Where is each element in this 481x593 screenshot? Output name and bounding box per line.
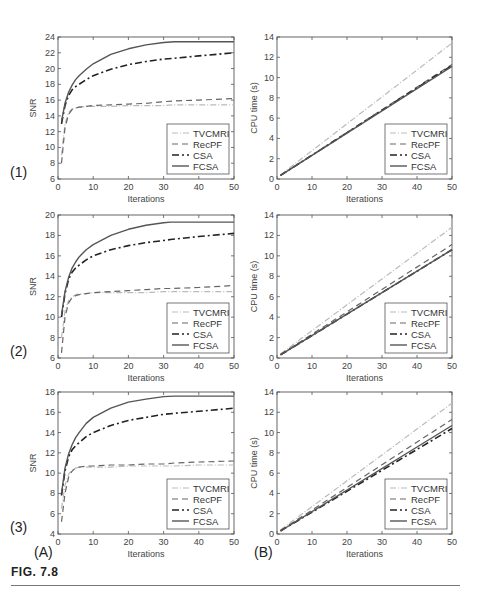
x-tick-label: 50 [447,537,457,547]
y-tick-label: 6 [269,292,274,302]
y-axis-label: SNR [28,277,38,297]
legend: TVCMRIRecPFCSAFCSA [167,124,229,174]
y-tick-label: 14 [45,428,55,438]
x-tick-label: 20 [342,182,352,192]
y-tick-label: 14 [45,111,55,121]
x-tick-label: 10 [307,537,317,547]
legend-label-recpf: RecPF [193,318,222,329]
chart-panel-2B: 0102030405002468101214IterationsCPU time… [249,210,457,383]
x-tick-label: 0 [274,537,279,547]
legend-label-fcsa: FCSA [193,516,219,527]
x-axis-label: Iterations [346,373,384,383]
x-tick-label: 10 [88,361,98,371]
x-tick-label: 20 [123,182,133,192]
y-tick-label: 4 [50,529,55,539]
x-tick-label: 50 [447,361,457,371]
y-tick-label: 6 [50,353,55,363]
legend-label-fcsa: FCSA [193,161,219,172]
x-tick-label: 40 [194,537,204,547]
chart-panel-1A: 01020304050681012141618202224IterationsS… [28,32,239,204]
y-tick-label: 8 [269,93,274,103]
x-tick-label: 0 [274,361,279,371]
y-tick-label: 8 [269,448,274,458]
y-tick-label: 4 [269,488,274,498]
legend-label-recpf: RecPF [411,139,440,150]
y-axis-label: SNR [28,453,38,473]
chart-panel-2A: 0102030405068101214161820IterationsSNRTV… [28,210,239,383]
legend-label-recpf: RecPF [411,494,440,505]
chart-panel-1B: 0102030405002468101214IterationsCPU time… [249,32,457,204]
x-tick-label: 0 [274,182,279,192]
y-tick-label: 2 [269,333,274,343]
legend-label-recpf: RecPF [193,139,222,150]
x-tick-label: 0 [55,537,60,547]
y-tick-label: 10 [45,468,55,478]
legend: TVCMRIRecPFCSAFCSA [385,303,447,353]
y-tick-label: 8 [269,271,274,281]
x-tick-label: 40 [194,182,204,192]
legend-label-csa: CSA [411,329,431,340]
x-tick-label: 10 [88,537,98,547]
y-tick-label: 10 [45,312,55,322]
y-tick-label: 16 [45,407,55,417]
y-tick-label: 2 [269,509,274,519]
x-tick-label: 40 [194,361,204,371]
x-axis-label: Iterations [346,549,384,559]
y-tick-label: 0 [269,174,274,184]
y-tick-label: 6 [269,113,274,123]
series-line-csa [62,53,235,124]
legend-label-tvcmri: TVCMRI [411,483,447,494]
x-tick-label: 20 [123,537,133,547]
x-tick-label: 30 [377,537,387,547]
y-tick-label: 0 [269,353,274,363]
x-tick-label: 40 [412,361,422,371]
x-axis-label: Iterations [127,373,165,383]
y-tick-label: 8 [50,333,55,343]
legend-label-tvcmri: TVCMRI [193,483,229,494]
chart-panel-3B: 0102030405002468101214IterationsCPU time… [249,387,457,559]
legend-label-csa: CSA [193,150,213,161]
legend-label-tvcmri: TVCMRI [193,128,229,139]
legend-label-tvcmri: TVCMRI [193,307,229,318]
series-line-fcsa [62,42,235,122]
legend: TVCMRIRecPFCSAFCSA [167,479,229,529]
y-tick-label: 14 [264,387,274,397]
x-tick-label: 20 [342,537,352,547]
x-tick-label: 40 [412,182,422,192]
x-tick-label: 10 [307,182,317,192]
legend: TVCMRIRecPFCSAFCSA [385,124,447,174]
y-tick-label: 10 [264,73,274,83]
y-tick-label: 8 [50,158,55,168]
legend-label-csa: CSA [411,150,431,161]
legend-label-recpf: RecPF [411,318,440,329]
y-tick-label: 20 [45,64,55,74]
legend-label-fcsa: FCSA [411,516,437,527]
x-tick-label: 40 [412,537,422,547]
x-tick-label: 10 [88,182,98,192]
legend-label-fcsa: FCSA [193,340,219,351]
y-tick-label: 18 [45,79,55,89]
y-tick-label: 6 [50,509,55,519]
column-label-a: (A) [34,544,53,560]
y-tick-label: 14 [45,271,55,281]
x-tick-label: 30 [159,182,169,192]
x-tick-label: 30 [159,537,169,547]
x-tick-label: 30 [377,361,387,371]
legend: TVCMRIRecPFCSAFCSA [385,479,447,529]
y-axis-label: SNR [28,98,38,118]
row-label: (3) [10,519,27,535]
x-tick-label: 0 [55,361,60,371]
y-tick-label: 12 [45,127,55,137]
chart-panel-3A: 010203040504681012141618IterationsSNRTVC… [28,387,239,559]
y-tick-label: 22 [45,48,55,58]
x-tick-label: 50 [447,182,457,192]
legend-label-csa: CSA [193,505,213,516]
legend: TVCMRIRecPFCSAFCSA [167,303,229,353]
x-tick-label: 20 [342,361,352,371]
x-tick-label: 0 [55,182,60,192]
y-tick-label: 6 [269,468,274,478]
x-tick-label: 50 [229,182,239,192]
y-tick-label: 18 [45,230,55,240]
y-tick-label: 10 [264,428,274,438]
y-tick-label: 10 [264,251,274,261]
